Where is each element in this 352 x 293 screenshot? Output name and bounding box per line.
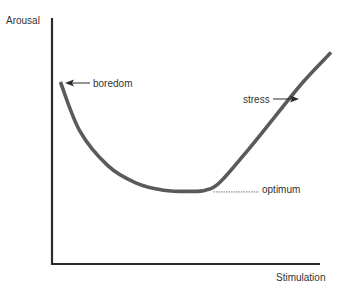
curve-layer (60, 52, 331, 191)
x-axis-label: Stimulation (276, 272, 325, 283)
annotation-stress-label: stress (243, 94, 270, 105)
arousal-stimulation-diagram: Arousal Stimulation boredom stress optim… (0, 0, 352, 293)
annotation-optimum-label: optimum (262, 184, 300, 195)
y-axis-label: Arousal (6, 15, 40, 26)
annotation-boredom-label: boredom (93, 78, 132, 89)
arousal-curve (60, 52, 331, 191)
axes (51, 18, 320, 265)
